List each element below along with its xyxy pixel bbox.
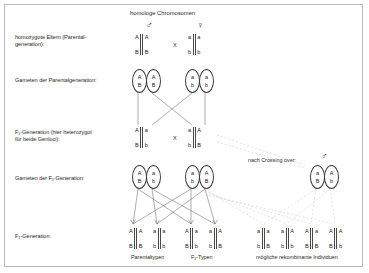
row-label-f1: F₁-Generation (hier heterozygot für beid…	[15, 129, 127, 143]
line-cross-1	[152, 93, 192, 125]
allele-bottom: b	[197, 49, 200, 55]
allele-bottom: b	[209, 243, 212, 249]
chromatid-right: A b	[290, 228, 294, 249]
f2-recombinant-1: a b a B	[257, 228, 270, 249]
gamete-f1-1: A B	[132, 165, 147, 189]
chromatid-left: a b	[188, 127, 191, 148]
allele-top: A	[339, 228, 343, 234]
allele-bottom: B	[138, 177, 142, 185]
line-f2-b	[138, 189, 191, 224]
allele-bottom: B	[185, 243, 189, 249]
chromosome-bars	[140, 127, 144, 148]
f2-f1-type-1: A B a b	[185, 228, 198, 249]
allele-top: A	[329, 228, 333, 234]
line-co-recomb-b	[311, 189, 316, 224]
chromosome-bars	[334, 228, 338, 249]
chromosome-bars	[134, 228, 138, 249]
f1-female-chromosomes: a b A B	[188, 127, 201, 148]
chromatid-left: A B	[135, 34, 139, 55]
caption-parental-types: Parentaltypen	[131, 254, 164, 260]
row-label-parents-line1: homozygote Eltern (Parental-	[15, 34, 86, 40]
male-symbol-parents: ♂	[146, 21, 153, 30]
line-f2-c	[152, 189, 157, 224]
cross-symbol-parents: X	[173, 42, 177, 48]
chromosome-bars	[192, 127, 196, 148]
chromatid-right: a b	[195, 228, 198, 249]
allele-top: a	[315, 228, 318, 234]
allele-top: a	[205, 73, 208, 81]
gamete-f1-2: a b	[146, 165, 161, 189]
allele-top: a	[195, 228, 198, 234]
chromatid-right: A B	[197, 127, 201, 148]
allele-top: A	[138, 73, 142, 81]
row-label-f1-line2: für beide Genloci):	[15, 136, 60, 142]
allele-top: a	[188, 34, 191, 40]
line-recomb-c	[205, 193, 311, 224]
allele-bottom: b	[152, 177, 155, 185]
allele-top: A	[205, 169, 209, 177]
chromosome-bars	[157, 228, 161, 249]
chromatid-right: A b	[339, 228, 343, 249]
allele-top: A	[129, 228, 133, 234]
allele-top: a	[266, 228, 269, 234]
chromosome-bars	[285, 228, 289, 249]
gamete-crossover-2: A b	[324, 165, 339, 189]
allele-top: a	[188, 127, 191, 133]
allele-bottom: b	[205, 81, 208, 89]
chromatid-left: a b	[281, 228, 284, 249]
allele-top: a	[191, 169, 194, 177]
cross-symbol-f1: X	[173, 135, 177, 141]
f1-male-chromosomes: A B a b	[135, 127, 148, 148]
allele-bottom: b	[188, 49, 191, 55]
allele-top: a	[152, 169, 155, 177]
allele-bottom: B	[135, 49, 139, 55]
diagram-title: homologe Chromosomen	[130, 10, 195, 16]
chromosome-bars	[213, 228, 217, 249]
allele-bottom: B	[139, 243, 143, 249]
allele-bottom: B	[305, 243, 309, 249]
allele-bottom: B	[205, 177, 209, 185]
allele-top: A	[185, 228, 189, 234]
female-symbol-parents: ♀	[197, 21, 204, 30]
allele-bottom: B	[316, 177, 320, 185]
line-f2-h	[205, 189, 215, 224]
allele-top: A	[218, 228, 222, 234]
arrow-f2-3	[189, 220, 194, 224]
caption-f1-types: F₁-Typen	[191, 254, 213, 260]
allele-bottom: B	[152, 81, 156, 89]
allele-top: A	[135, 127, 139, 133]
row-label-f2: F₂-Generation:	[15, 233, 51, 240]
chromatid-left: A B	[129, 228, 133, 249]
chromosome-bars	[140, 34, 144, 55]
gamete-parental-4: a b	[199, 69, 214, 93]
chromatid-left: A B	[135, 127, 139, 148]
chromatid-left: a b	[257, 228, 260, 249]
allele-top: a	[191, 73, 194, 81]
line-crossover-in-2	[217, 142, 305, 168]
parents-female-chromosomes: a b a b	[188, 34, 200, 55]
allele-top: a	[209, 228, 212, 234]
arrow-f2-1	[131, 220, 136, 224]
caption-f1-types-text: F₁-Typen	[191, 254, 213, 260]
allele-top: A	[290, 228, 294, 234]
chromatid-right: A B	[139, 228, 143, 249]
allele-bottom: B	[329, 243, 333, 249]
chromatid-left: a b	[188, 34, 191, 55]
allele-bottom: B	[197, 142, 201, 148]
allele-bottom: b	[257, 243, 260, 249]
chromatid-left: a b	[209, 228, 212, 249]
row-label-parents-line2: generation):	[15, 41, 44, 47]
line-recomb-b	[205, 191, 287, 224]
allele-bottom: b	[339, 243, 342, 249]
allele-bottom: b	[195, 243, 198, 249]
allele-bottom: B	[315, 243, 319, 249]
arrow-f2-4	[213, 220, 218, 224]
line-f2-a	[133, 189, 138, 224]
gamete-parental-3: a b	[185, 69, 200, 93]
allele-top: A	[138, 169, 142, 177]
allele-bottom: B	[218, 243, 222, 249]
chromatid-right: a b	[145, 127, 148, 148]
allele-bottom: b	[290, 243, 293, 249]
allele-top: A	[152, 73, 156, 81]
gamete-f1-3: a b	[185, 165, 200, 189]
